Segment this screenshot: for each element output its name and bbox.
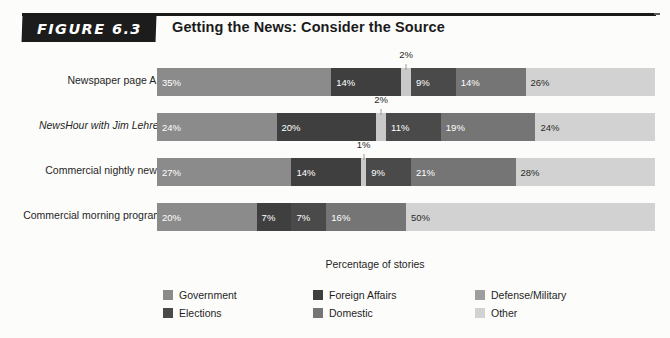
x-axis-caption-text: Percentage of stories <box>325 258 424 270</box>
legend-item-label: Government <box>179 289 237 301</box>
legend-swatch-icon <box>163 290 173 300</box>
legend-item-label: Elections <box>179 307 222 319</box>
segment-value-label: 7% <box>291 212 310 223</box>
bar-segment[interactable]: 16% <box>326 203 406 231</box>
legend-item[interactable]: Elections <box>163 304 313 322</box>
legend-item[interactable]: Foreign Affairs <box>313 286 475 304</box>
bar-segment[interactable]: 9% <box>411 68 456 96</box>
segment-value-label: 26% <box>526 77 550 88</box>
row-category-label: Commercial morning program <box>23 209 162 221</box>
stacked-bar: 27%14%9%21%28% <box>157 158 655 186</box>
row-category-label: Newspaper page A1 <box>67 74 162 86</box>
bar-segment[interactable]: 24% <box>535 113 655 141</box>
bar-segment[interactable]: 7% <box>291 203 326 231</box>
figure-header: FIGURE 6.3 Getting the News: Consider th… <box>22 16 656 42</box>
legend-item[interactable]: Defense/Military <box>475 286 583 304</box>
bar-segment[interactable] <box>376 113 386 141</box>
legend-swatch-icon <box>475 308 485 318</box>
segment-value-label: 11% <box>386 122 409 133</box>
callout-leader-line <box>406 64 407 70</box>
legend-item[interactable]: Domestic <box>313 304 475 322</box>
legend-item[interactable]: Government <box>163 286 313 304</box>
bar-segment[interactable]: 14% <box>331 68 401 96</box>
bar-segment[interactable]: 20% <box>277 113 377 141</box>
segment-value-label: 27% <box>157 167 181 178</box>
segment-value-label: 50% <box>406 212 430 223</box>
stacked-bar: 35%14%9%14%26% <box>157 68 655 96</box>
segment-value-label: 7% <box>257 212 276 223</box>
chart-row: Commercial nightly news27%14%9%21%28%1% <box>0 150 670 195</box>
figure-number-label: FIGURE 6.3 <box>37 21 142 37</box>
bar-segment[interactable]: 7% <box>257 203 292 231</box>
chart-legend: GovernmentForeign AffairsDefense/Militar… <box>163 286 583 322</box>
legend-swatch-icon <box>475 290 485 300</box>
bar-segment[interactable]: 27% <box>157 158 291 186</box>
segment-value-label: 21% <box>411 167 435 178</box>
segment-value-label: 9% <box>411 77 430 88</box>
bar-segment[interactable]: 14% <box>456 68 526 96</box>
bar-segment[interactable]: 11% <box>386 113 441 141</box>
bar-segment[interactable]: 19% <box>441 113 536 141</box>
bar-segment[interactable]: 26% <box>526 68 655 96</box>
bar-segment[interactable]: 9% <box>366 158 411 186</box>
bar-segment[interactable]: 21% <box>411 158 516 186</box>
callout-leader-line <box>381 109 382 115</box>
stacked-bar: 20%7%7%16%50% <box>157 203 655 231</box>
segment-value-label: 35% <box>157 77 181 88</box>
segment-value-label: 19% <box>441 122 465 133</box>
segment-value-label: 20% <box>277 122 301 133</box>
legend-item-label: Other <box>491 307 517 319</box>
legend-swatch-icon <box>313 308 323 318</box>
legend-item-label: Domestic <box>329 307 373 319</box>
chart-row: NewsHour with Jim Lehrer24%20%11%19%24%2… <box>0 105 670 150</box>
legend-swatch-icon <box>313 290 323 300</box>
segment-value-label: 14% <box>456 77 480 88</box>
bar-segment[interactable]: 20% <box>157 203 257 231</box>
figure-number-badge: FIGURE 6.3 <box>22 16 157 42</box>
legend-item-label: Foreign Affairs <box>329 289 397 301</box>
segment-value-label: 14% <box>331 77 355 88</box>
figure-title: Getting the News: Consider the Source <box>172 19 445 35</box>
row-category-label: Commercial nightly news <box>45 164 162 176</box>
bar-segment[interactable]: 24% <box>157 113 277 141</box>
segment-value-label: 14% <box>291 167 315 178</box>
callout-leader-line <box>363 154 364 160</box>
segment-value-label: 16% <box>326 212 350 223</box>
chart-row: Newspaper page A135%14%9%14%26%2% <box>0 60 670 105</box>
segment-value-label: 20% <box>157 212 181 223</box>
segment-value-label: 28% <box>516 167 540 178</box>
bar-segment[interactable]: 50% <box>406 203 655 231</box>
row-category-label: NewsHour with Jim Lehrer <box>39 119 162 131</box>
segment-value-label: 24% <box>535 122 559 133</box>
chart-plot-area: Newspaper page A135%14%9%14%26%2%NewsHou… <box>0 60 670 250</box>
segment-value-label: 9% <box>366 167 385 178</box>
legend-swatch-icon <box>163 308 173 318</box>
bar-segment[interactable] <box>401 68 411 96</box>
x-axis-caption: Percentage of stories <box>0 258 670 270</box>
figure-container: FIGURE 6.3 Getting the News: Consider th… <box>0 0 670 338</box>
legend-item[interactable]: Other <box>475 304 583 322</box>
stacked-bar: 24%20%11%19%24% <box>157 113 655 141</box>
chart-row: Commercial morning program20%7%7%16%50% <box>0 195 670 240</box>
legend-item-label: Defense/Military <box>491 289 566 301</box>
segment-value-label: 24% <box>157 122 181 133</box>
bar-segment[interactable]: 35% <box>157 68 331 96</box>
bar-segment[interactable]: 28% <box>516 158 655 186</box>
bar-segment[interactable]: 14% <box>291 158 361 186</box>
